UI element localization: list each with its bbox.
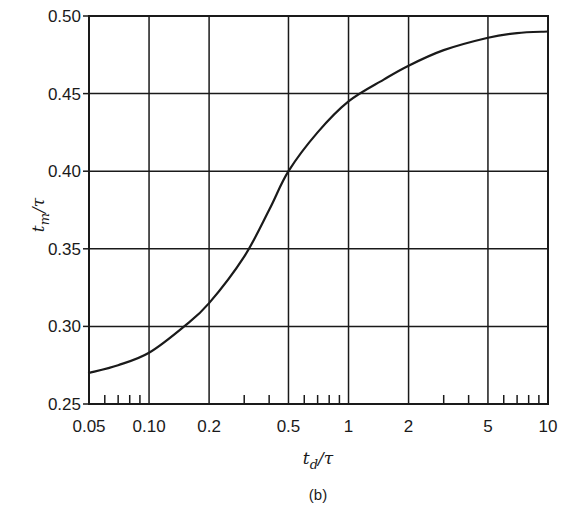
y-tick-label: 0.25: [48, 395, 81, 414]
x-tick-label: 0.2: [197, 417, 221, 436]
x-tick-labels: 0.050.100.20.512510: [72, 417, 557, 436]
y-tick-label: 0.30: [48, 317, 81, 336]
x-tick-label: 10: [539, 417, 558, 436]
x-tick-label: 0.05: [72, 417, 105, 436]
chart: 0.250.300.350.400.450.50 0.050.100.20.51…: [0, 0, 565, 516]
x-tick-label: 1: [344, 417, 353, 436]
y-tick-label: 0.45: [48, 85, 81, 104]
x-tick-label: 0.5: [277, 417, 301, 436]
y-tick-label: 0.50: [48, 7, 81, 26]
figure-caption: (b): [309, 486, 327, 503]
minor-ticks: [105, 395, 539, 404]
grid-lines: [83, 16, 548, 404]
x-tick-label: 0.10: [133, 417, 166, 436]
y-tick-label: 0.40: [48, 162, 81, 181]
x-tick-label: 5: [483, 417, 492, 436]
y-tick-labels: 0.250.300.350.400.450.50: [48, 7, 81, 414]
y-axis-label: tm/τ: [28, 197, 52, 232]
data-curve: [89, 32, 548, 374]
y-tick-label: 0.35: [48, 240, 81, 259]
x-tick-label: 2: [404, 417, 413, 436]
x-axis-label: td/τ: [303, 448, 334, 472]
